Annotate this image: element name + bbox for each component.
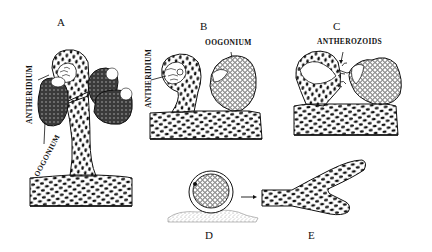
panel-label-a: A [57,16,65,28]
diagram-canvas: A B C D E ANTHERIDIUM OOGONIUM ANTHERIDI… [0,0,432,252]
panel-a-drawing [30,50,132,206]
b-antheridium-label: ANTHERIDIUM [144,49,153,108]
a-antheridium-label: ANTHERIDIUM [25,65,34,124]
a-oogonium-pointer [44,122,45,144]
d-to-e-arrow [241,195,257,199]
panel-e-drawing [262,160,366,215]
panel-c-drawing [294,51,401,135]
panel-b-drawing [150,52,262,139]
panel-d-drawing [168,171,258,222]
panel-label-e: E [308,229,315,241]
b-oogonium-label: OOGONIUM [205,38,252,47]
panel-label-b: B [200,20,208,32]
panel-label-d: D [205,229,213,241]
c-antherozoids-label: ANTHEROZOIDS [317,37,382,46]
panel-label-c: C [333,20,341,32]
